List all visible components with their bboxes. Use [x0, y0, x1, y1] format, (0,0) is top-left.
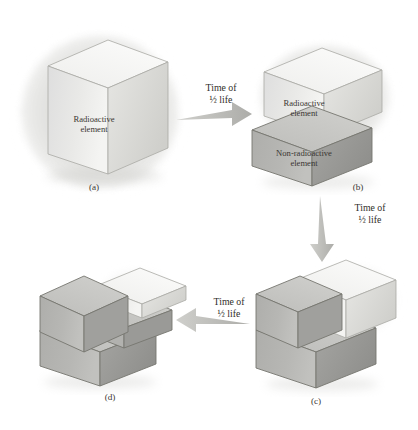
cube-panel-b: [252, 48, 382, 189]
figure-canvas: Radioactive element Radioactive element …: [0, 0, 418, 430]
decay-diagram-svg: [0, 0, 418, 430]
arrow-b-to-c: [310, 196, 334, 262]
cube-panel-c: [256, 260, 396, 391]
cube-panel-d: [40, 268, 186, 389]
arrow-c-to-d: [176, 308, 250, 332]
